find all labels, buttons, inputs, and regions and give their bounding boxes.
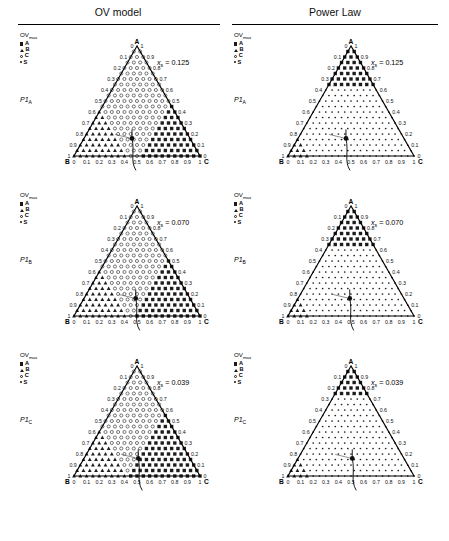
- point-label-text: P1: [234, 96, 243, 103]
- leader-line: [333, 294, 348, 298]
- legend-title-subscript: max: [29, 195, 37, 200]
- axis-tick-right: 1: [355, 203, 358, 209]
- axis-tick-bottom: 0.3: [322, 319, 329, 325]
- axis-tick-bottom: 1: [413, 319, 416, 325]
- filled-square-icon: [20, 362, 23, 365]
- ternary-panel-pl-row1: OVmaxABCSABC00.10.20.30.40.50.60.70.80.9…: [228, 30, 433, 190]
- operating-point-marker: [136, 456, 141, 461]
- axis-tick-right: 0: [418, 473, 421, 479]
- axis-tick-left: 0.8: [290, 451, 297, 457]
- vertex-label-a: A: [135, 198, 140, 205]
- axis-tick-right: 0.6: [166, 87, 173, 93]
- axis-tick-right: 0: [204, 153, 207, 159]
- axis-tick-left: 0.3: [321, 396, 328, 402]
- operating-point-marker: [344, 136, 349, 141]
- legend-title-subscript: max: [29, 35, 37, 40]
- axis-tick-right: 0.7: [159, 76, 166, 82]
- open-circle-icon: [20, 55, 23, 58]
- axis-tick-left: 0.1: [334, 54, 341, 60]
- axis-tick-right: 0.1: [411, 142, 418, 148]
- axis-tick-bottom: 0.5: [133, 159, 140, 165]
- column-title-pl: Power Law: [309, 6, 361, 18]
- axis-tick-bottom: 0.9: [184, 159, 191, 165]
- legend-entry: S: [234, 219, 251, 225]
- open-circle-icon: [234, 55, 237, 58]
- axis-tick-bottom: 0.1: [83, 159, 90, 165]
- axis-tick-right: 1: [141, 43, 144, 49]
- axis-tick-bottom: 1: [199, 479, 202, 485]
- axis-tick-right: 0.3: [399, 120, 406, 126]
- axis-tick-left: 1: [282, 153, 285, 159]
- axis-tick-left: 0.2: [328, 385, 335, 391]
- axis-tick-bottom: 0.2: [96, 479, 103, 485]
- axis-tick-left: 0.8: [76, 131, 83, 137]
- axis-tick-bottom: 0.5: [133, 319, 140, 325]
- legend: OVmaxABCS: [234, 32, 251, 65]
- axis-tick-right: 0.3: [185, 120, 192, 126]
- axis-tick-bottom: 0.3: [322, 159, 329, 165]
- leader-line: [115, 134, 129, 138]
- xs-value: = 0.039: [163, 378, 189, 387]
- axis-tick-right: 0.5: [172, 258, 179, 264]
- open-circle-icon: [20, 375, 23, 378]
- legend: OVmaxABCS: [234, 192, 251, 225]
- axis-tick-right: 0.3: [185, 280, 192, 286]
- axis-tick-left: 0.7: [82, 280, 89, 286]
- legend-title-text: OV: [234, 31, 243, 38]
- operating-point-marker: [347, 296, 352, 301]
- legend-entry: S: [20, 219, 37, 225]
- small-dot-icon: [234, 221, 236, 223]
- axis-tick-bottom: 0: [73, 319, 76, 325]
- axis-tick-left: 0.3: [107, 236, 114, 242]
- axis-tick-right: 0.4: [392, 429, 399, 435]
- axis-tick-right: 0: [204, 313, 207, 319]
- legend-title-text: OV: [234, 191, 243, 198]
- axis-tick-bottom: 0.3: [108, 479, 115, 485]
- axis-tick-right: 0.2: [191, 131, 198, 137]
- axis-tick-bottom: 0.3: [108, 159, 115, 165]
- axis-tick-right: 0.6: [380, 87, 387, 93]
- axis-tick-left: 0.3: [321, 236, 328, 242]
- column-title-ov: OV model: [95, 6, 142, 18]
- axis-tick-right: 0.2: [191, 291, 198, 297]
- axis-tick-right: 0.7: [159, 236, 166, 242]
- axis-tick-bottom: 0.2: [96, 319, 103, 325]
- axis-tick-bottom: 0.4: [121, 159, 128, 165]
- axis-tick-left: 0.4: [315, 407, 322, 413]
- ternary-plot: ABC00.10.20.30.40.50.60.70.80.9110.90.80…: [268, 190, 433, 350]
- axis-tick-bottom: 0.7: [159, 159, 166, 165]
- axis-tick-left: 0.3: [107, 396, 114, 402]
- axis-tick-right: 0.7: [159, 396, 166, 402]
- axis-tick-left: 0.8: [76, 291, 83, 297]
- axis-tick-right: 0.1: [197, 302, 204, 308]
- legend: OVmaxABCS: [234, 352, 251, 385]
- xs-value: = 0.070: [377, 218, 403, 227]
- axis-tick-bottom: 0.5: [133, 479, 140, 485]
- axis-tick-left: 0.5: [95, 258, 102, 264]
- axis-tick-bottom: 0.2: [96, 159, 103, 165]
- axis-tick-left: 0.9: [69, 142, 76, 148]
- filled-square-icon: [234, 42, 237, 45]
- vertex-label-a: A: [349, 198, 354, 205]
- axis-tick-right: 0.6: [380, 407, 387, 413]
- axis-tick-left: 0: [345, 363, 348, 369]
- axis-tick-right: 0.3: [185, 440, 192, 446]
- xs-annotation: xs = 0.039: [371, 378, 403, 388]
- axis-tick-left: 0.8: [290, 291, 297, 297]
- axis-tick-bottom: 1: [199, 319, 202, 325]
- point-label-text: P1: [234, 416, 243, 423]
- axis-tick-bottom: 0.7: [159, 319, 166, 325]
- axis-tick-left: 0.1: [120, 374, 127, 380]
- operating-point-marker: [130, 136, 135, 141]
- filled-triangle-icon: [234, 49, 238, 52]
- axis-tick-bottom: 0: [73, 479, 76, 485]
- filled-triangle-icon: [20, 49, 24, 52]
- axis-tick-bottom: 0.7: [159, 479, 166, 485]
- axis-tick-bottom: 0.8: [171, 319, 178, 325]
- ternary-plot: ABC00.10.20.30.40.50.60.70.80.9110.90.80…: [54, 190, 219, 350]
- legend-entry-label: S: [237, 220, 241, 226]
- filled-triangle-icon: [20, 369, 24, 372]
- legend-title-text: OV: [20, 191, 29, 198]
- axis-tick-right: 0: [204, 473, 207, 479]
- axis-tick-right: 0.2: [405, 451, 412, 457]
